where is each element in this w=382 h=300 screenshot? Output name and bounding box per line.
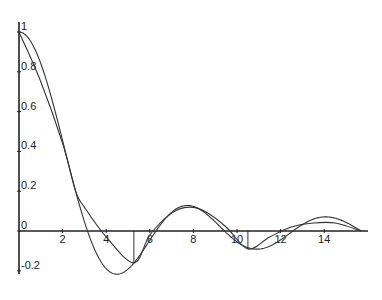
x-tick-label: 14 (318, 233, 330, 245)
chart-plot-area: 246810121410.80.60.40.20-0.2 (0, 0, 382, 300)
x-tick-label: 2 (60, 233, 66, 245)
y-tick-label: 0.2 (21, 179, 36, 191)
x-tick-label: 8 (190, 233, 196, 245)
y-tick-label: 0.6 (21, 100, 36, 112)
series-approximation (19, 32, 361, 263)
y-tick-label: -0.2 (21, 259, 40, 271)
y-tick-label: 1 (21, 20, 27, 32)
y-tick-label: 0 (21, 219, 27, 231)
y-tick-label: 0.4 (21, 139, 36, 151)
